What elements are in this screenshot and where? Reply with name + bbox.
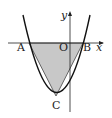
- label-a: A: [16, 41, 26, 54]
- y-axis-arrow-icon: [68, 11, 72, 16]
- label-x-axis: x: [96, 41, 103, 54]
- label-c: C: [52, 99, 60, 112]
- label-b: B: [83, 41, 91, 54]
- label-o: O: [59, 41, 68, 54]
- parabola-diagram: A O B x y C: [0, 0, 112, 118]
- label-y-axis: y: [60, 9, 68, 22]
